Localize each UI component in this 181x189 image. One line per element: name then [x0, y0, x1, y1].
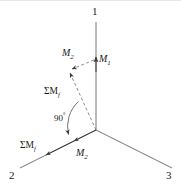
sum-l-sub: f	[34, 145, 36, 152]
vector-label-sum-mf-upper: ΣMf	[44, 87, 60, 98]
diagram-canvas	[0, 0, 181, 189]
sum-l-base: ΣM	[20, 140, 34, 150]
vector-label-m1: M1	[99, 54, 111, 67]
vector-diagram-figure: 1 2 3 M1 M2 M2 ΣMf ΣMf 90°	[0, 0, 181, 189]
m1-sub: 1	[107, 59, 111, 67]
right-angle-arc	[68, 102, 79, 135]
degree-symbol: °	[63, 112, 65, 118]
axis-label-2: 2	[9, 170, 15, 181]
axis-label-1: 1	[92, 6, 98, 17]
m2u-sub: 2	[70, 53, 74, 61]
m2-upper-vector	[72, 60, 94, 69]
vector-label-sum-mf-lower: ΣMf	[20, 141, 36, 152]
sum-u-sub: f	[58, 91, 60, 98]
sum-mf-lower-vector	[46, 141, 74, 155]
m2l-sub: 2	[84, 153, 88, 161]
m2-lower-vector	[74, 130, 96, 141]
sum-u-base: ΣM	[44, 86, 58, 96]
vector-label-m2-upper: M2	[62, 48, 74, 61]
axis-label-3: 3	[166, 170, 172, 181]
angle-label-90: 90°	[54, 112, 65, 123]
vector-label-m2-lower: M2	[76, 148, 88, 161]
sum-mf-upper-vector	[70, 73, 96, 130]
angle-value: 90	[54, 113, 63, 123]
axis-3-line	[96, 130, 172, 168]
